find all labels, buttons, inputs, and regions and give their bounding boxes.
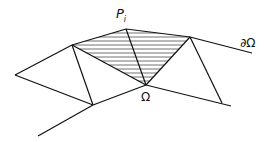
- boundary-label: ∂Ω: [240, 36, 255, 50]
- vertex-label: Pi: [116, 6, 126, 24]
- vertex-label-subscript: i: [124, 15, 126, 24]
- triangulation-diagram: [0, 0, 272, 142]
- domain-label: Ω: [141, 90, 150, 104]
- boundary-curve: [15, 29, 252, 75]
- vertex-label-main: P: [116, 6, 124, 21]
